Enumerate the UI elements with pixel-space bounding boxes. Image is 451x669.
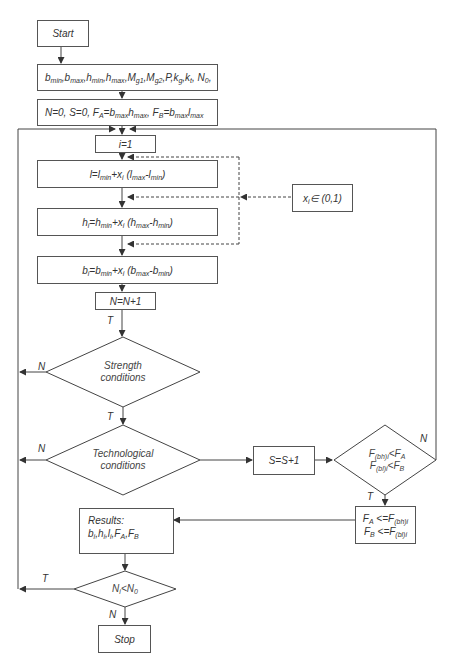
start-label: Start (52, 28, 73, 39)
stop-node: Stop (98, 625, 151, 653)
technological-line1: Technological (93, 448, 154, 460)
edge-label-strength-yes: T (107, 411, 113, 422)
strength-line2: conditions (100, 372, 145, 384)
edge-label-strength-no: N (38, 361, 45, 372)
n-increment-node: N=N+1 (95, 292, 156, 310)
edge-label-t-after-n: T (107, 315, 113, 326)
ni-compare-text: Ni<N0 (112, 583, 138, 595)
initialization-node: N=0, S=0, FA=bmaxhmax, FB=bmaxlmax (37, 99, 218, 126)
b-formula-text: bi=bmin+xi (bmax-bmin) (82, 265, 173, 276)
edge-label-ni-no: N (109, 609, 116, 620)
strength-conditions-decision: Strength conditions (100, 360, 145, 384)
h-formula-node: hi=hmin+xi (hmax-hmin) (37, 208, 218, 236)
b-formula-node: bi=bmin+xi (bmax-bmin) (37, 256, 218, 284)
input-parameters-text: bmin,bmax,hmin,hmax,Mg1,Mg2,P,kg,kt, N0, (45, 72, 211, 83)
i-init-node: i=1 (95, 135, 156, 153)
edge-label-tech-no: N (38, 443, 45, 454)
start-node: Start (37, 20, 89, 47)
f-compare-line1: F(bh)i<FA (369, 448, 406, 460)
stop-label: Stop (114, 634, 135, 645)
edge-label-f-compare-no: N (420, 433, 427, 444)
l-formula-text: l=lmin+xi (lmax-lmin) (90, 169, 166, 180)
f-update-node: FA <=F(bh)i FB <=F(bl)i (355, 506, 416, 544)
results-node: Results: bi,hi,li,FA,FB (79, 508, 174, 554)
i-init-label: i=1 (119, 139, 133, 150)
xi-range-node: xi∈ (0,1) (292, 184, 353, 212)
results-title: Results: (88, 514, 124, 527)
f-compare-decision: F(bh)i<FA F(bl)i<FB (369, 448, 406, 472)
strength-line1: Strength (100, 360, 145, 372)
initialization-text: N=0, S=0, FA=bmaxhmax, FB=bmaxlmax (45, 107, 203, 118)
input-parameters-node: bmin,bmax,hmin,hmax,Mg1,Mg2,P,kg,kt, N0, (37, 64, 218, 91)
results-values: bi,hi,li,FA,FB (88, 527, 139, 540)
f-update-line1: FA <=F(bh)i (363, 512, 408, 525)
f-update-line2: FB <=F(bl)i (364, 525, 407, 538)
n-increment-label: N=N+1 (110, 296, 142, 307)
technological-line2: conditions (93, 460, 154, 472)
xi-range-text: xi∈ (0,1) (303, 193, 342, 204)
s-increment-label: S=S+1 (269, 455, 300, 466)
h-formula-text: hi=hmin+xi (hmax-hmin) (82, 217, 173, 228)
l-formula-node: l=lmin+xi (lmax-lmin) (37, 160, 218, 188)
edge-label-f-compare-yes: T (367, 491, 373, 502)
edge-label-ni-yes: T (42, 573, 48, 584)
ni-compare-decision: Ni<N0 (112, 583, 138, 595)
technological-conditions-decision: Technological conditions (93, 448, 154, 472)
s-increment-node: S=S+1 (253, 446, 315, 475)
f-compare-line2: F(bl)i<FB (369, 460, 406, 472)
